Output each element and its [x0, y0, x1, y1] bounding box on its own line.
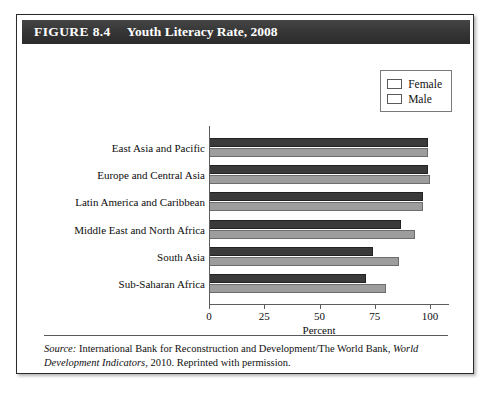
x-axis-line [209, 304, 449, 305]
source-divider [44, 335, 448, 336]
category-label: Middle East and North Africa [74, 224, 205, 236]
x-axis-tick-label: 0 [206, 310, 212, 322]
bar-male [209, 284, 386, 293]
figure-number-label: FIGURE 8.4 [34, 24, 111, 40]
x-axis-tick [375, 304, 376, 309]
x-axis-tick [264, 304, 265, 309]
source-note: Source: International Bank for Reconstru… [44, 342, 452, 370]
bar-female [209, 274, 366, 283]
x-axis-tick-label: 25 [259, 310, 270, 322]
x-axis-tick [209, 304, 210, 309]
category-label: Sub-Saharan Africa [119, 278, 205, 290]
bar-female [209, 247, 373, 256]
x-axis-tick [320, 304, 321, 309]
bar-female [209, 192, 423, 201]
bar-male [209, 230, 415, 239]
category-label: East Asia and Pacific [112, 142, 205, 154]
bar-male [209, 148, 428, 157]
figure-title: Youth Literacy Rate, 2008 [127, 24, 278, 40]
x-axis-tick-label: 100 [422, 310, 439, 322]
y-axis-line [209, 126, 210, 304]
source-prefix: Source: [44, 343, 76, 354]
category-label: Europe and Central Asia [97, 169, 205, 181]
bar-male [209, 202, 423, 211]
source-body-1: International Bank for Reconstruction an… [76, 343, 393, 354]
bar-male [209, 175, 430, 184]
figure-header: FIGURE 8.4 Youth Literacy Rate, 2008 [22, 20, 470, 44]
bar-chart: East Asia and PacificEurope and Central … [22, 48, 470, 330]
bar-male [209, 257, 399, 266]
x-axis-tick [430, 304, 431, 309]
bar-female [209, 165, 428, 174]
category-label: Latin America and Caribbean [75, 196, 205, 208]
bar-female [209, 220, 401, 229]
chart-plot-area: Female Male East Asia and PacificEurope … [22, 48, 470, 330]
x-axis-tick-label: 50 [314, 310, 325, 322]
source-body-2: , 2010. Reprinted with permission. [145, 357, 291, 368]
x-axis-tick-label: 75 [369, 310, 380, 322]
bar-female [209, 138, 428, 147]
category-label: South Asia [157, 251, 205, 263]
figure-card: FIGURE 8.4 Youth Literacy Rate, 2008 Fem… [16, 14, 474, 374]
